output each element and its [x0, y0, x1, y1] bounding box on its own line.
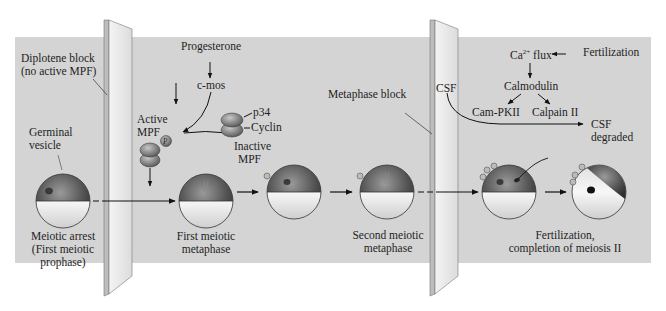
inactive-mpf-complex	[221, 113, 243, 137]
vesicle-label: vesicle	[29, 139, 61, 152]
flux-text: flux	[530, 49, 551, 61]
active-mpf-label: MPF	[137, 126, 160, 139]
egg-2-first-metaphase	[179, 174, 233, 228]
ca-flux-label: Ca2+ flux	[510, 46, 552, 62]
stage-6-line-2: completion of meiosis II	[495, 242, 635, 255]
stage-2-caption: First meiotic metaphase	[166, 230, 246, 256]
stage-1-line-2: (First meiotic	[20, 243, 106, 256]
fertilization-trigger-label: Fertilization	[583, 46, 639, 59]
phosphate-label: P	[163, 135, 167, 148]
stage-4-line-2: metaphase	[343, 242, 433, 255]
inactive-label: Inactive	[234, 140, 271, 153]
c-mos-label: c-mos	[197, 79, 225, 92]
metaphase-barrier	[430, 20, 458, 296]
stage-2-line-2: metaphase	[166, 243, 246, 256]
progesterone-label: Progesterone	[181, 40, 241, 53]
csf-degraded-label: CSF	[591, 118, 611, 131]
stage-4-line-1: Second meiotic	[343, 229, 433, 242]
stage-2-line-1: First meiotic	[166, 230, 246, 243]
diplotene-barrier	[104, 20, 132, 296]
csf-label: CSF	[436, 82, 456, 95]
egg-4-second-metaphase	[357, 165, 414, 219]
p34-label: p34	[253, 106, 270, 119]
stage-4-caption: Second meiotic metaphase	[343, 229, 433, 255]
stage-1-line-1: Meiotic arrest	[20, 230, 106, 243]
stage-1-line-3: prophase)	[20, 256, 106, 269]
calmodulin-label: Calmodulin	[504, 80, 558, 93]
cyclin-label: Cyclin	[251, 121, 282, 134]
germinal-label: Germinal	[29, 126, 72, 139]
egg-6-fertilized	[570, 164, 626, 219]
egg-5-sperm-entry	[480, 158, 548, 219]
ca-text: Ca	[510, 49, 523, 61]
cam-pkii-label: Cam-PKII	[472, 106, 520, 119]
degraded-label: degraded	[591, 131, 633, 144]
diplotene-block-label: Diplotene block	[21, 52, 95, 65]
egg-3-polar-body	[264, 165, 321, 219]
no-active-mpf-label: (no active MPF)	[21, 65, 96, 78]
stage-6-caption: Fertilization, completion of meiosis II	[495, 229, 635, 255]
active-label: Active	[137, 113, 168, 126]
stage-1-caption: Meiotic arrest (First meiotic prophase)	[20, 230, 106, 269]
calpain-ii-label: Calpain II	[532, 106, 578, 119]
egg-1-germinal-vesicle	[36, 174, 90, 228]
stage-6-line-1: Fertilization,	[495, 229, 635, 242]
inactive-mpf-label: MPF	[238, 153, 261, 166]
metaphase-block-label: Metaphase block	[328, 88, 406, 101]
